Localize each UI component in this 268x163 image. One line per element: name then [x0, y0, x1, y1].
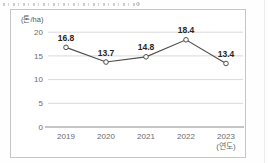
data-point-marker — [144, 55, 149, 60]
data-point-marker — [184, 37, 189, 42]
y-tick-label: 5 — [39, 99, 44, 108]
x-tick-label: 2019 — [57, 132, 75, 141]
data-point-label: 16.8 — [58, 33, 75, 43]
x-tick-label: 2020 — [97, 132, 115, 141]
data-point-marker — [64, 45, 69, 50]
y-tick-label: 10 — [34, 75, 43, 84]
y-tick-label: 0 — [39, 123, 44, 132]
chart-panel: 05101520(톤/ha)16.8201913.7202014.8202118… — [10, 9, 246, 158]
data-point-marker — [224, 61, 229, 66]
x-tick-label: 2021 — [137, 132, 155, 141]
y-tick-label: 20 — [34, 28, 43, 37]
clipped-caption-fragments — [3, 3, 139, 6]
data-point-label: 13.7 — [98, 48, 115, 58]
y-axis-unit-label: (톤/ha) — [21, 15, 44, 24]
data-point-label: 13.4 — [218, 49, 235, 59]
page-edge-line — [264, 0, 265, 163]
line-chart: 05101520(톤/ha)16.8201913.7202014.8202118… — [11, 10, 245, 157]
clipped-caption-glyph — [136, 2, 140, 6]
x-axis-unit-label: (연도) — [216, 142, 236, 151]
data-point-marker — [104, 60, 109, 65]
y-tick-label: 15 — [34, 52, 43, 61]
x-tick-label: 2023 — [217, 132, 235, 141]
data-point-label: 18.4 — [178, 25, 195, 35]
data-point-label: 14.8 — [138, 42, 155, 52]
x-tick-label: 2022 — [177, 132, 195, 141]
